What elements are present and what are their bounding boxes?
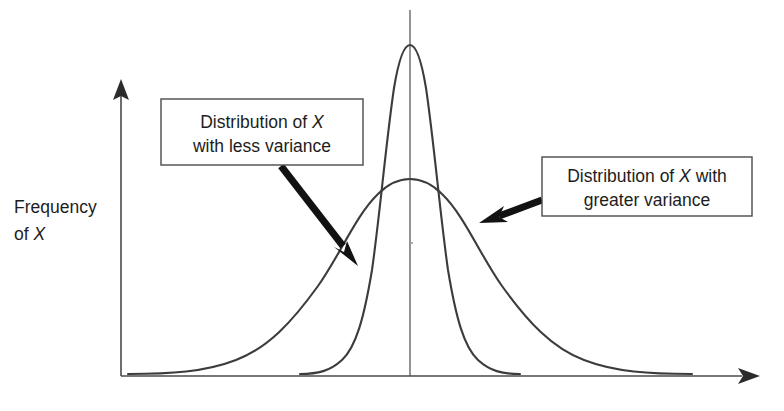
figure-canvas: Distribution of X with less variance Dis… (0, 0, 784, 411)
callout-greater-variance-line2: greater variance (584, 190, 710, 210)
scan-speck (411, 242, 413, 244)
callout-less-variance[interactable]: Distribution of X with less variance (161, 99, 363, 165)
variance-distribution-diagram: Distribution of X with less variance Dis… (0, 0, 784, 411)
y-axis-label-line1: Frequency (14, 197, 97, 217)
callout-greater-variance[interactable]: Distribution of X with greater variance (542, 157, 752, 216)
y-axis-label: Frequency of X (14, 197, 97, 244)
callout-less-variance-line1: Distribution of X (200, 112, 325, 132)
callout-greater-variance-line1: Distribution of X with (567, 166, 727, 186)
greater-variance-pointer-shaft (499, 200, 542, 216)
less-variance-pointer-shaft (281, 166, 343, 246)
callout-less-variance-line2: with less variance (192, 136, 331, 156)
y-axis-label-line2: of X (14, 224, 46, 244)
